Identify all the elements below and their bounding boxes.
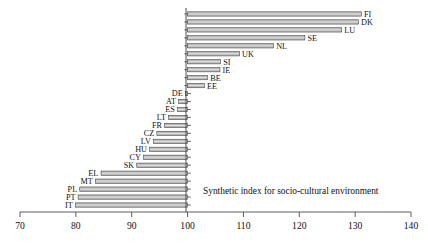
category-label-uk: UK (242, 50, 254, 59)
x-tick-label-70: 70 (15, 220, 25, 231)
bar-chart-svg: FIDKLUSENLUKSIIEBEEEDEATESLTFRCZLVHUCYSK… (0, 0, 428, 244)
x-tick-label-120: 120 (292, 220, 307, 231)
category-label-es: ES (165, 105, 175, 114)
category-label-it: IT (65, 201, 73, 210)
category-label-ie: IE (223, 66, 231, 75)
category-label-dk: DK (361, 18, 373, 27)
x-tick-label-80: 80 (71, 220, 81, 231)
category-label-ee: EE (207, 82, 217, 91)
category-label-sk: SK (124, 161, 135, 170)
x-tick-label-140: 140 (404, 220, 419, 231)
chart-container: FIDKLUSENLUKSIIEBEEEDEATESLTFRCZLVHUCYSK… (0, 0, 428, 244)
x-tick-label-90: 90 (127, 220, 137, 231)
x-axis-tick-layer: 708090100110120130140 (15, 212, 418, 231)
x-tick-label-130: 130 (348, 220, 363, 231)
x-tick-label-110: 110 (236, 220, 250, 231)
bars-layer (75, 12, 361, 207)
x-tick-label-100: 100 (180, 220, 195, 231)
chart-caption: Synthetic index for socio-cultural envir… (203, 186, 379, 196)
category-label-se: SE (307, 34, 317, 43)
category-label-nl: NL (276, 42, 287, 51)
category-label-lu: LU (344, 26, 355, 35)
category-label-mt: MT (81, 177, 93, 186)
